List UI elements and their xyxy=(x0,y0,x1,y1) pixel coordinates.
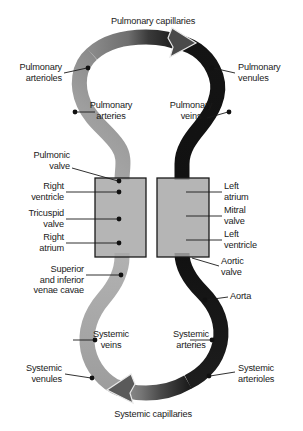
label-tricuspid-valve: Tricuspid valve xyxy=(6,208,64,229)
label-mitral-valve: Mitral valve xyxy=(224,205,284,226)
dot-right-ventricle xyxy=(117,190,122,195)
label-left-atrium: Left atrium xyxy=(224,181,284,202)
leader-systemic-venules xyxy=(65,374,91,378)
dot-venae-cavae xyxy=(119,273,124,278)
label-left-ventricle: Left ventricle xyxy=(224,229,286,250)
label-pulmonary-arteries: Pulmonary arteries xyxy=(80,100,142,121)
circulatory-system-diagram: Pulmonary capillaries Pulmonary arteriol… xyxy=(0,0,303,431)
aorta-path xyxy=(182,253,221,382)
label-aorta: Aorta xyxy=(230,291,280,302)
label-aortic-valve: Aortic valve xyxy=(221,256,281,277)
leader-aortic-valve xyxy=(192,258,219,266)
dot-pulmonary-arteries xyxy=(73,110,78,115)
label-pulmonary-arterioles: Pulmonary arterioles xyxy=(2,62,62,83)
label-systemic-venules: Systemic venules xyxy=(2,363,62,384)
dot-pulmonary-arterioles xyxy=(86,66,91,71)
label-pulmonary-capillaries: Pulmonary capillaries xyxy=(88,16,218,27)
dot-pulmonary-veins xyxy=(227,110,232,115)
label-pulmonary-venules: Pulmonary venules xyxy=(238,62,302,83)
dot-aorta xyxy=(203,298,208,303)
label-pulmonic-valve: Pulmonic valve xyxy=(8,150,70,171)
dot-systemic-venules xyxy=(90,376,95,381)
label-right-atrium: Right atrium xyxy=(8,232,64,253)
vena-cava-path xyxy=(87,253,122,389)
dot-pulmonary-venules xyxy=(210,66,215,71)
dot-right-atrium xyxy=(117,241,122,246)
label-systemic-capillaries: Systemic capillaries xyxy=(88,409,218,420)
label-systemic-arterioles: Systemic arterioles xyxy=(238,363,302,384)
left-heart-box xyxy=(157,178,209,257)
dot-pulmonic-valve xyxy=(117,179,122,184)
label-systemic-arteries: Systemic arteries xyxy=(160,329,222,350)
label-systemic-veins: Systemic veins xyxy=(80,329,142,350)
label-venae-cavae: Superior and inferior venae cavae xyxy=(4,264,84,296)
label-pulmonary-veins: Pulmonary veins xyxy=(160,100,222,121)
label-right-ventricle: Right ventricle xyxy=(8,181,64,202)
leader-systemic-arterioles xyxy=(210,372,235,376)
dot-systemic-arterioles xyxy=(207,374,212,379)
dot-tricuspid-valve xyxy=(117,217,122,222)
